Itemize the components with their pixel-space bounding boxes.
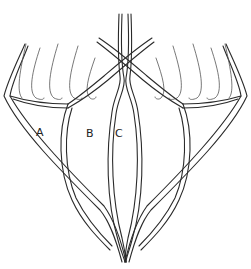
label-a: A <box>36 127 44 138</box>
label-b: B <box>86 128 94 139</box>
branch-a-right <box>125 44 247 262</box>
label-c: C <box>115 128 123 139</box>
